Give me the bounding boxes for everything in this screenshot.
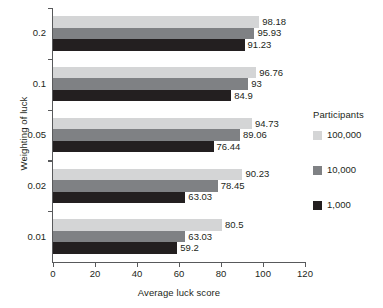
bar-value-label: 76.44: [217, 142, 241, 152]
y-category-label: 0.01: [6, 232, 46, 242]
bar-value-label: 91.23: [248, 40, 272, 50]
bar-row: 93: [53, 78, 305, 90]
x-tick-label: 40: [132, 269, 143, 279]
y-category-label: 0.05: [6, 130, 46, 140]
bar-row: 84.9: [53, 90, 305, 102]
bar[interactable]: [53, 231, 185, 243]
x-tick-label: 120: [297, 269, 313, 279]
bar[interactable]: [53, 78, 248, 90]
bar-value-label: 90.23: [245, 170, 269, 180]
bar-group: 94.7389.0676.44: [53, 118, 305, 153]
bar-row: 80.5: [53, 219, 305, 231]
bar[interactable]: [53, 169, 242, 181]
bar[interactable]: [53, 219, 222, 231]
bar-row: 63.03: [53, 192, 305, 204]
x-tick: [263, 262, 264, 267]
bar[interactable]: [53, 16, 259, 28]
bar-value-label: 93: [251, 79, 262, 89]
bar-value-label: 96.76: [259, 68, 283, 78]
bar[interactable]: [53, 141, 214, 153]
x-tick: [179, 262, 180, 267]
bar[interactable]: [53, 180, 218, 192]
bar-value-label: 59.2: [180, 243, 199, 253]
bar-row: 98.18: [53, 16, 305, 28]
legend-item[interactable]: 10,000: [313, 165, 383, 175]
bar[interactable]: [53, 67, 256, 79]
y-tick: [48, 160, 53, 161]
x-tick: [305, 262, 306, 267]
bar-value-label: 84.9: [234, 91, 253, 101]
y-tick: [48, 8, 53, 9]
legend-swatch-icon: [313, 201, 322, 210]
legend-swatch-icon: [313, 166, 322, 175]
x-tick: [53, 262, 54, 267]
y-tick: [48, 211, 53, 212]
bar[interactable]: [53, 90, 231, 102]
plot-area: 0.20.10.050.020.01 020406080100120 98.18…: [53, 8, 305, 262]
bar-value-label: 80.5: [225, 220, 244, 230]
y-category-label: 0.1: [6, 79, 46, 89]
bar[interactable]: [53, 39, 245, 51]
bar-value-label: 95.93: [257, 29, 281, 39]
y-category-label: 0.02: [6, 181, 46, 191]
legend-label: 1,000: [327, 200, 351, 210]
legend-swatch-icon: [313, 131, 322, 140]
x-tick-label: 100: [255, 269, 271, 279]
legend-label: 10,000: [327, 165, 356, 175]
bar-value-label: 63.03: [188, 193, 212, 203]
bar-value-label: 94.73: [255, 119, 279, 129]
x-tick-label: 0: [50, 269, 55, 279]
bar-group: 90.2378.4563.03: [53, 169, 305, 204]
bar-value-label: 78.45: [221, 181, 245, 191]
x-tick: [221, 262, 222, 267]
legend-item[interactable]: 1,000: [313, 200, 383, 210]
bar-row: 90.23: [53, 169, 305, 181]
bar-row: 59.2: [53, 242, 305, 254]
bar[interactable]: [53, 192, 185, 204]
bar-chart: Weighting of luck 0.20.10.050.020.01 020…: [0, 0, 383, 308]
y-category-label: 0.2: [6, 28, 46, 38]
x-tick-label: 60: [174, 269, 185, 279]
bar-row: 76.44: [53, 141, 305, 153]
legend-item[interactable]: 100,000: [313, 130, 383, 140]
bar-group: 80.563.0359.2: [53, 219, 305, 254]
legend-title: Participants: [313, 109, 383, 120]
bar-value-label: 89.06: [243, 130, 267, 140]
bar-row: 63.03: [53, 231, 305, 243]
legend: Participants 100,00010,0001,000: [313, 109, 383, 235]
bar-row: 89.06: [53, 129, 305, 141]
bar-group: 98.1895.9391.23: [53, 16, 305, 51]
bar-value-label: 63.03: [188, 232, 212, 242]
x-tick: [137, 262, 138, 267]
bar-value-label: 98.18: [262, 17, 286, 27]
bar[interactable]: [53, 129, 240, 141]
bar-row: 94.73: [53, 118, 305, 130]
x-tick-label: 80: [216, 269, 227, 279]
x-tick: [95, 262, 96, 267]
bar[interactable]: [53, 28, 254, 40]
bar[interactable]: [53, 118, 252, 130]
bar-row: 96.76: [53, 67, 305, 79]
y-tick: [48, 110, 53, 111]
bar[interactable]: [53, 242, 177, 254]
bar-group: 96.769384.9: [53, 67, 305, 102]
bar-row: 95.93: [53, 28, 305, 40]
y-tick: [48, 59, 53, 60]
bar-row: 78.45: [53, 180, 305, 192]
legend-items: 100,00010,0001,000: [313, 130, 383, 210]
x-tick-label: 20: [90, 269, 101, 279]
x-axis-title: Average luck score: [53, 287, 305, 298]
bar-row: 91.23: [53, 39, 305, 51]
legend-label: 100,000: [327, 130, 361, 140]
